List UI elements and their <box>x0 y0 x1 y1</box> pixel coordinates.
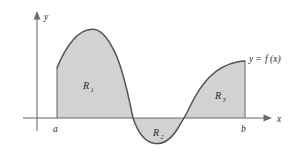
x-tick-label-b: b <box>241 124 246 134</box>
region-r1-subscript: 1 <box>91 86 94 93</box>
region-r2-base: R <box>152 127 159 138</box>
region-r1-fill <box>57 29 133 118</box>
integral-regions-figure: y x a b R 1 R 2 R 3 y = f (x) <box>0 0 297 168</box>
x-axis-arrowhead-icon <box>264 115 273 122</box>
function-label: y = f (x) <box>248 54 281 65</box>
x-axis-label: x <box>276 114 282 124</box>
function-label-y: y <box>248 54 254 64</box>
y-axis-arrowhead-icon <box>34 11 41 20</box>
function-label-argument: (x) <box>270 54 281 65</box>
function-label-equals: = <box>256 54 261 64</box>
x-tick-label-a: a <box>53 124 58 134</box>
y-axis-label: y <box>43 12 49 22</box>
y-axis <box>34 11 41 131</box>
region-r3-base: R <box>214 90 221 101</box>
function-label-f: f <box>265 54 269 64</box>
region-r1-base: R <box>82 80 89 91</box>
